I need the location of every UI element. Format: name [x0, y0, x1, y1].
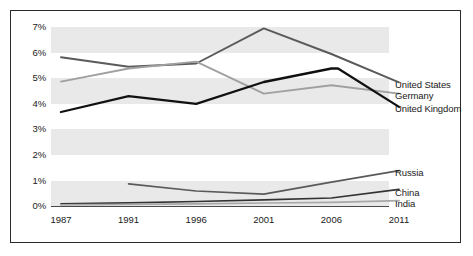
chart-frame: 7% 6% 5% 4% 3% 2% 1% 0% — [10, 10, 461, 243]
x-axis-line — [51, 206, 389, 207]
xtick-1996: 1996 — [174, 214, 218, 225]
xtick-2001: 2001 — [242, 214, 286, 225]
plot-area: 7% 6% 5% 4% 3% 2% 1% 0% — [11, 11, 462, 244]
series-label-russia: Russia — [395, 167, 423, 178]
xtick-1987: 1987 — [39, 214, 83, 225]
xtick-2011: 2011 — [377, 214, 421, 225]
series-label-china: China — [395, 187, 419, 198]
series-label-germany: Germany — [395, 90, 433, 101]
series-label-united-kingdom: United Kingdom — [395, 103, 461, 114]
line-germany — [61, 62, 399, 94]
xtick-1991: 1991 — [107, 214, 151, 225]
line-united-kingdom — [61, 69, 399, 113]
series-lines — [11, 11, 462, 244]
series-label-united-states: United States — [395, 79, 451, 90]
line-russia — [129, 171, 399, 195]
chart-screenshot: 7% 6% 5% 4% 3% 2% 1% 0% — [0, 0, 473, 256]
series-label-india: India — [395, 198, 415, 209]
xtick-2006: 2006 — [309, 214, 353, 225]
